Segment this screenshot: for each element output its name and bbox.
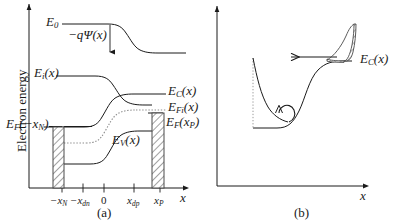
label-ev: EV(x) <box>112 133 140 148</box>
ev-curve <box>49 127 162 165</box>
ec-curve <box>44 94 166 127</box>
panel-b-axes <box>215 6 369 188</box>
ohmic-contact-right <box>152 113 164 188</box>
label-e0: E0 <box>46 15 58 30</box>
label-ef-xp: EF(xP) <box>166 115 199 130</box>
panel-a-axes <box>27 4 189 190</box>
panel-b-ec-curve <box>253 61 352 128</box>
x-axis-label-b: x <box>360 189 366 202</box>
ohmic-contact-left <box>53 127 64 188</box>
label-potential-drop: −qΨ(x) <box>68 28 107 41</box>
label-ec-panel-b: EC(x) <box>360 52 388 67</box>
xtick-minus-xn: −xN <box>50 194 67 208</box>
caption-panel-b: (b) <box>294 205 309 221</box>
label-ef-minus-xn: EF(−xN) <box>6 117 48 132</box>
panel-b-carrier-wedge <box>327 24 356 62</box>
panel-b-left-distribution <box>253 58 288 122</box>
label-ec: EC(x) <box>168 84 196 99</box>
xtick-minus-xdn: −xdn <box>70 194 90 208</box>
figure-root: Electron energy E0 −qΨ(x) Ei(x) EC(x) EF… <box>0 0 394 224</box>
ei-curve <box>56 76 152 105</box>
caption-panel-a: (a) <box>97 205 111 221</box>
x-axis-label-a: x <box>180 191 186 204</box>
xtick-xp: xP <box>154 194 163 208</box>
label-ei: Ei(x) <box>34 66 59 81</box>
xtick-xdp: xdp <box>127 194 139 208</box>
y-axis-label: Electron energy <box>14 70 30 152</box>
